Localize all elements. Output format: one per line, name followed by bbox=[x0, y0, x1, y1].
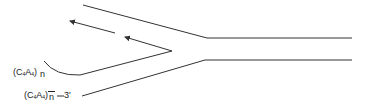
repeat-count: n bbox=[40, 69, 45, 79]
label-base: (C bbox=[13, 67, 23, 77]
okazaki-fragment-arrow-2 bbox=[125, 37, 172, 51]
parental-top-diagonal bbox=[83, 5, 207, 38]
repeat-count: n bbox=[48, 91, 55, 102]
upper-repeat-label: (C4A4)n bbox=[13, 68, 45, 77]
three-prime-end-label: 3' bbox=[64, 90, 71, 100]
lower-repeat-label: (C4A4)n3' bbox=[24, 91, 71, 100]
label-base: (C bbox=[24, 90, 34, 100]
okazaki-fragment-arrow-1 bbox=[70, 21, 115, 33]
label-base: ) bbox=[34, 67, 37, 77]
parental-bottom-diagonal bbox=[82, 60, 205, 96]
extended-strand-curve bbox=[44, 51, 172, 75]
